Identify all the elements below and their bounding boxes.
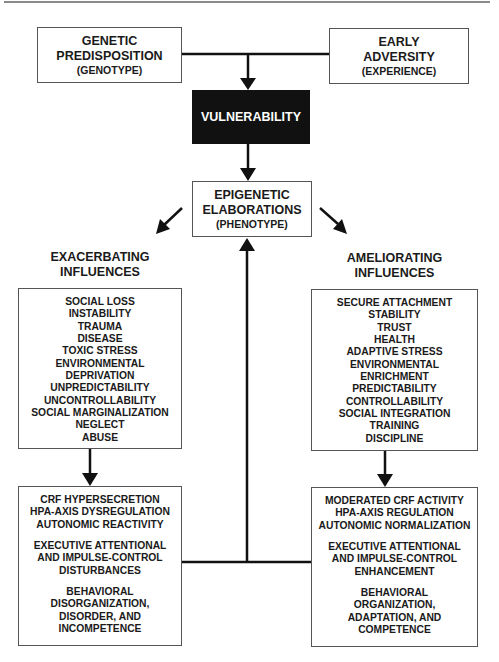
list-item: UNCONTROLLABILITY [44, 395, 156, 407]
list-item: SOCIAL MARGINALIZATION [31, 407, 168, 419]
arrow-up-icon [239, 238, 255, 251]
epigenetic-title-line1: EPIGENETIC [214, 188, 290, 203]
exacerbating-influences-box: SOCIAL LOSS INSTABILITY TRAUMA DISEASE T… [18, 288, 182, 449]
outcome-line: HPA-AXIS REGULATION [335, 507, 454, 519]
arrow-down-icon [82, 473, 98, 486]
list-item: TRUST [377, 322, 411, 334]
genetic-predisposition-box: GENETIC PREDISPOSITION (GENOTYPE) [37, 27, 182, 83]
list-item: CONTROLLABILITY [346, 396, 443, 408]
outcome-line: COMPETENCE [358, 624, 431, 636]
ameliorating-heading: AMELIORATING INFLUENCES [311, 251, 478, 281]
outcome-line: BEHAVIORAL [361, 587, 428, 599]
list-item: INSTABILITY [69, 308, 132, 320]
outcome-line: ORGANIZATION, [354, 599, 436, 611]
vulnerability-label: VULNERABILITY [201, 110, 301, 125]
epigenetic-elaborations-box: EPIGENETIC ELABORATIONS (PHENOTYPE) [192, 181, 312, 237]
ameliorating-heading-line1: AMELIORATING [311, 251, 478, 266]
exacerbating-outcomes-box: CRF HYPERSECRETION HPA-AXIS DYSREGULATIO… [18, 486, 182, 646]
epigenetic-title-line2: ELABORATIONS [202, 203, 301, 218]
outcome-line: AUTONOMIC NORMALIZATION [319, 520, 471, 532]
epigenetic-subtitle: (PHENOTYPE) [216, 218, 288, 231]
outcome-line: DISORGANIZATION, [51, 598, 150, 610]
list-item: SOCIAL LOSS [65, 296, 135, 308]
arrow-down-icon [377, 474, 393, 487]
list-item: HEALTH [374, 334, 415, 346]
outcome-line: HPA-AXIS DYSREGULATION [30, 506, 170, 518]
list-item: SECURE ATTACHMENT [337, 297, 452, 309]
list-item: TRAUMA [78, 321, 123, 333]
exacerbating-heading-line1: EXACERBATING [18, 250, 182, 265]
list-item: STABILITY [368, 309, 420, 321]
list-item: UNPREDICTABILITY [50, 382, 149, 394]
exacerbating-heading: EXACERBATING INFLUENCES [18, 250, 182, 280]
outcome-line: DISTURBANCES [59, 565, 141, 577]
genetic-title-line1: GENETIC [82, 34, 138, 49]
outcome-line: INCOMPETENCE [59, 623, 142, 635]
adversity-title-line2: ADVERSITY [363, 50, 435, 65]
arrow-down-icon [240, 78, 256, 90]
arrow-down-icon [240, 168, 256, 181]
genetic-title-line2: PREDISPOSITION [56, 49, 162, 64]
ameliorating-heading-line2: INFLUENCES [311, 266, 478, 281]
outcome-line: EXECUTIVE ATTENTIONAL [328, 541, 461, 553]
adversity-subtitle: (EXPERIENCE) [362, 65, 437, 78]
list-item: TOXIC STRESS [62, 345, 137, 357]
outcome-line: AND IMPULSE-CONTROL [332, 553, 457, 565]
outcome-line: ENHANCEMENT [354, 566, 434, 578]
outcome-line: CRF HYPERSECRETION [40, 494, 160, 506]
ameliorating-outcomes-box: MODERATED CRF ACTIVITY HPA-AXIS REGULATI… [311, 487, 478, 647]
list-item: DISCIPLINE [366, 433, 424, 445]
outcome-line: EXECUTIVE ATTENTIONAL [34, 540, 167, 552]
exacerbating-heading-line2: INFLUENCES [18, 265, 182, 280]
vulnerability-box: VULNERABILITY [192, 90, 310, 144]
list-item: DISEASE [77, 333, 122, 345]
list-item: SOCIAL INTEGRATION [339, 408, 451, 420]
list-item: NEGLECT [75, 419, 124, 431]
list-item: ADAPTIVE STRESS [346, 346, 442, 358]
outcome-line: AUTONOMIC REACTIVITY [36, 519, 163, 531]
outcome-line: ADAPTATION, AND [348, 612, 442, 624]
list-item: PREDICTABILITY [352, 383, 436, 395]
early-adversity-box: EARLY ADVERSITY (EXPERIENCE) [329, 28, 469, 84]
list-item: DEPRIVATION [66, 370, 135, 382]
outcome-line: DISORDER, AND [59, 611, 141, 623]
outcome-line: MODERATED CRF ACTIVITY [325, 495, 464, 507]
genetic-subtitle: (GENOTYPE) [77, 64, 142, 77]
ameliorating-influences-box: SECURE ATTACHMENT STABILITY TRUST HEALTH… [311, 289, 478, 451]
outcome-line: BEHAVIORAL [66, 586, 133, 598]
outcome-line: AND IMPULSE-CONTROL [37, 552, 162, 564]
list-item: ENVIRONMENTAL [55, 358, 144, 370]
list-item: ABUSE [82, 432, 118, 444]
list-item: ENRICHMENT [360, 371, 429, 383]
list-item: ENVIRONMENTAL [350, 359, 439, 371]
adversity-title-line1: EARLY [378, 35, 419, 50]
list-item: TRAINING [370, 420, 420, 432]
